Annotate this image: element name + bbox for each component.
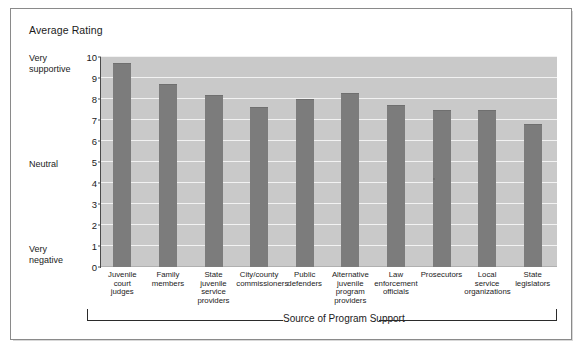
x-axis-category-label: Alternative juvenile program providers bbox=[328, 271, 374, 305]
y-tick-label: 2 bbox=[92, 220, 97, 231]
x-axis-category-label: Juvenile court judges bbox=[100, 271, 146, 297]
y-tick-label: 7 bbox=[92, 115, 97, 126]
bar bbox=[387, 105, 405, 267]
y-tick-label: 9 bbox=[92, 73, 97, 84]
x-axis-category-label: Local service organizations bbox=[464, 271, 510, 297]
y-tick-label: 1 bbox=[92, 241, 97, 252]
x-axis-category-label: Family members bbox=[145, 271, 191, 288]
x-axis-title: Source of Program Support bbox=[283, 313, 379, 324]
bar bbox=[341, 93, 359, 267]
bar bbox=[113, 63, 131, 267]
bar bbox=[524, 124, 542, 267]
y-tick-label: 8 bbox=[92, 94, 97, 105]
x-axis-category-label: State legislators bbox=[510, 271, 556, 288]
bar bbox=[433, 110, 451, 268]
bar bbox=[159, 84, 177, 267]
y-tick-label: 0 bbox=[92, 262, 97, 273]
bar bbox=[478, 110, 496, 268]
chart-title: Average Rating bbox=[29, 24, 103, 36]
x-axis-category-label: City/county commissioners bbox=[236, 271, 282, 288]
y-axis: 012345678910 bbox=[73, 57, 101, 267]
y-tick-label: 5 bbox=[92, 157, 97, 168]
y-tick-label: 3 bbox=[92, 199, 97, 210]
bracket-segment-left bbox=[87, 320, 283, 321]
bar bbox=[296, 99, 314, 267]
x-axis-category-label: Law enforcement officials bbox=[373, 271, 419, 297]
bracket-tick-right bbox=[556, 309, 557, 321]
x-axis-category-label: Public defenders bbox=[282, 271, 328, 288]
x-axis-bracket: Source of Program Support bbox=[87, 309, 557, 331]
bar bbox=[250, 107, 268, 267]
plot-area bbox=[101, 57, 557, 267]
bars-layer bbox=[101, 57, 557, 267]
bracket-segment-right bbox=[379, 320, 557, 321]
x-axis-category-label: State juvenile service providers bbox=[191, 271, 237, 305]
figure-frame: Average Rating Very supportive Neutral V… bbox=[10, 8, 572, 340]
y-tick-label: 4 bbox=[92, 178, 97, 189]
scan-artifact-speck bbox=[433, 178, 435, 180]
bar bbox=[205, 95, 223, 267]
y-tick-label: 10 bbox=[86, 52, 97, 63]
x-axis-category-label: Prosecutors bbox=[419, 271, 465, 280]
y-tick-label: 6 bbox=[92, 136, 97, 147]
